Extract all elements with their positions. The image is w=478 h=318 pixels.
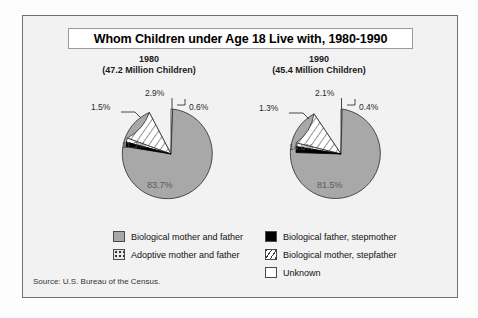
pct-1990-mother-stepfather: 14.6% — [289, 142, 313, 152]
legend-swatch-diagonal-hatch-icon — [265, 249, 277, 260]
chart-figure: Whom Children under Age 18 Live with, 19… — [0, 0, 478, 318]
panel-year-1990: 1990 — [239, 54, 399, 65]
pct-1990-unknown: 1.3% — [259, 103, 278, 113]
pct-1990-biological-parents: 81.5% — [317, 180, 343, 190]
page-title: Whom Children under Age 18 Live with, 19… — [94, 32, 388, 46]
legend-swatch-empty-white-icon — [265, 267, 277, 278]
legend-item-mother-stepfather[interactable]: Biological mother, stepfather — [265, 246, 440, 263]
legend-label-father-stepmother: Biological father, stepmother — [283, 232, 397, 242]
legend-item-father-stepmother[interactable]: Biological father, stepmother — [265, 228, 440, 245]
panel-heading-1990: 1990 (45.4 Million Children) — [239, 54, 399, 76]
legend-swatch-solid-gray-icon — [113, 231, 125, 242]
legend-item-adoptive[interactable]: Adoptive mother and father — [113, 246, 273, 263]
chart-panel: Whom Children under Age 18 Live with, 19… — [22, 15, 458, 298]
pie-chart-1990: 81.5% 14.6% 2.1% 1.3% 0.4% — [219, 88, 419, 223]
pct-1990-father-stepmother: 2.1% — [315, 88, 334, 98]
legend-swatch-solid-black-icon — [265, 231, 277, 242]
pct-1980-mother-stepfather: 11.3% — [122, 140, 145, 150]
legend-column-left: Biological mother and father Adoptive mo… — [113, 228, 273, 264]
pct-1980-biological-parents: 83.7% — [147, 180, 173, 190]
legend-swatch-stipple-icon — [113, 249, 125, 260]
panel-subtitle-1990: (45.4 Million Children) — [239, 65, 399, 76]
legend-item-biological-parents[interactable]: Biological mother and father — [113, 228, 273, 245]
panel-subtitle-1980: (47.2 Million Children) — [69, 65, 229, 76]
panel-year-1980: 1980 — [69, 54, 229, 65]
pct-1980-father-stepmother: 2.9% — [145, 88, 164, 98]
legend-item-unknown[interactable]: Unknown — [265, 264, 440, 281]
legend-label-biological-parents: Biological mother and father — [131, 232, 243, 242]
pie-svg-1990 — [219, 88, 419, 223]
pct-1990-adoptive: 0.4% — [359, 102, 378, 112]
legend-label-unknown: Unknown — [283, 268, 321, 278]
chart-legend: Biological mother and father Adoptive mo… — [69, 228, 429, 278]
pct-1980-adoptive: 0.6% — [189, 102, 208, 112]
pct-1980-unknown: 1.5% — [91, 102, 110, 112]
legend-label-adoptive: Adoptive mother and father — [131, 250, 240, 260]
legend-column-right: Biological father, stepmother Biological… — [265, 228, 440, 282]
panel-heading-1980: 1980 (47.2 Million Children) — [69, 54, 229, 76]
source-note: Source: U.S. Bureau of the Census. — [33, 277, 160, 286]
chart-title-bar: Whom Children under Age 18 Live with, 19… — [68, 28, 413, 49]
legend-label-mother-stepfather: Biological mother, stepfather — [283, 250, 397, 260]
